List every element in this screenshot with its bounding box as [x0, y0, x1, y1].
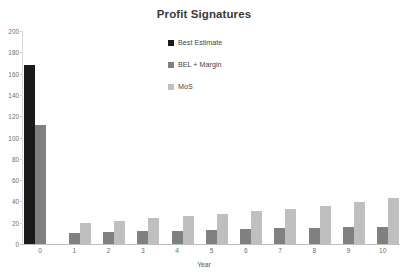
bar [103, 232, 114, 244]
bar [388, 198, 399, 244]
bar-groups [23, 31, 400, 244]
bar [80, 223, 91, 244]
bar [251, 211, 262, 244]
bar [285, 209, 296, 244]
bar [240, 229, 251, 244]
bar [24, 65, 35, 244]
x-axis-tick-label: 2 [92, 247, 126, 254]
y-axis-tick-mark [20, 31, 22, 32]
x-axis-tick-label: 8 [297, 247, 331, 254]
x-axis-tick-label: 3 [126, 247, 160, 254]
bar [206, 230, 217, 244]
bar [114, 221, 125, 244]
y-axis-tick-mark [20, 52, 22, 53]
y-axis-tick-mark [20, 201, 22, 202]
bar-group [229, 31, 263, 244]
bar [35, 125, 46, 244]
x-axis-tick-label: 10 [366, 247, 400, 254]
bar-group [331, 31, 365, 244]
bar [183, 216, 194, 244]
y-axis-tick-label: 120 [8, 113, 19, 120]
bar-group [126, 31, 160, 244]
bar [274, 228, 285, 244]
bar [137, 231, 148, 244]
bar-group [194, 31, 228, 244]
bar-group [23, 31, 57, 244]
x-axis-tick-label: 4 [160, 247, 194, 254]
y-axis-tick-label: 20 [12, 219, 19, 226]
x-axis-tick-label: 6 [229, 247, 263, 254]
y-axis-tick-label: 200 [8, 28, 19, 35]
bar [309, 228, 320, 244]
y-axis-tick-label: 180 [8, 49, 19, 56]
x-axis-title: Year [0, 261, 408, 268]
x-axis-tick-label: 9 [331, 247, 365, 254]
bar [148, 218, 159, 244]
bar [69, 233, 80, 244]
y-axis-tick-label: 100 [8, 134, 19, 141]
plot-area: 020406080100120140160180200 [22, 31, 400, 245]
x-axis-tick-labels: 012345678910 [23, 247, 400, 254]
x-axis-tick-label: 7 [263, 247, 297, 254]
chart-container: Profit Signatures Best Estimate BEL + Ma… [0, 0, 408, 277]
bar [320, 206, 331, 244]
y-axis-tick-mark [20, 180, 22, 181]
x-axis-tick-label: 1 [57, 247, 91, 254]
y-axis-tick-mark [20, 116, 22, 117]
bar [217, 214, 228, 244]
bar [377, 227, 388, 244]
bar-group [366, 31, 400, 244]
x-axis-tick-label: 0 [23, 247, 57, 254]
y-axis-tick-label: 40 [12, 198, 19, 205]
y-axis-tick-label: 80 [12, 155, 19, 162]
y-axis-tick-label: 160 [8, 70, 19, 77]
x-axis-tick-label: 5 [194, 247, 228, 254]
bar-group [57, 31, 91, 244]
y-axis-tick-label: 0 [15, 241, 19, 248]
y-axis-tick-mark [20, 138, 22, 139]
y-axis-tick-mark [20, 223, 22, 224]
chart-title: Profit Signatures [0, 8, 408, 20]
y-axis-tick-mark [20, 74, 22, 75]
y-axis-tick-label: 60 [12, 177, 19, 184]
bar-group [263, 31, 297, 244]
y-axis-tick-mark [20, 159, 22, 160]
bar-group [160, 31, 194, 244]
bar-group [297, 31, 331, 244]
x-axis-line [22, 244, 400, 245]
bar-group [92, 31, 126, 244]
y-axis-tick-label: 140 [8, 91, 19, 98]
y-axis-tick-mark [20, 95, 22, 96]
bar [354, 202, 365, 244]
bar [343, 227, 354, 244]
bar [172, 231, 183, 244]
